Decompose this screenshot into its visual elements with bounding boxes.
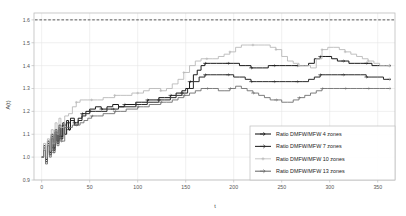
y-tick-label: 1.5	[23, 40, 30, 46]
x-tick-label: 0	[40, 184, 43, 190]
y-tick-label: 1.1	[23, 131, 30, 137]
legend-item-label: Ratio DMFW/MFW 4 zones	[276, 131, 342, 137]
x-tick-label: 200	[229, 184, 238, 190]
x-tick-label: 350	[373, 184, 382, 190]
y-tick-label: 1.0	[23, 154, 30, 160]
chart-canvas: 1.61.51.41.31.21.11.00.9 050100150200250…	[0, 0, 406, 216]
y-tick-label: 1.6	[23, 17, 30, 23]
legend-item-label: Ratio DMFW/MFW 7 zones	[276, 143, 342, 149]
legend-item-label: Ratio DMFW/MFW 13 zones	[276, 168, 345, 174]
y-tick-label: 0.9	[23, 177, 30, 183]
y-axis-label: A(t)	[5, 100, 11, 109]
x-tick-label: 250	[277, 184, 286, 190]
legend-box[interactable]: Ratio DMFW/MFW 4 zonesRatio DMFW/MFW 7 z…	[250, 126, 395, 180]
figure-background	[0, 0, 406, 216]
x-tick-label: 150	[181, 184, 190, 190]
x-tick-label: 50	[87, 184, 93, 190]
x-tick-label: 300	[325, 184, 334, 190]
x-tick-label: 100	[133, 184, 142, 190]
y-tick-label: 1.3	[23, 85, 30, 91]
y-tick-label: 1.2	[23, 108, 30, 114]
y-tick-label: 1.4	[23, 63, 30, 69]
chart-figure: 1.61.51.41.31.21.11.00.9 050100150200250…	[0, 0, 406, 216]
legend-item-label: Ratio DMFW/MFW 10 zones	[276, 156, 345, 162]
